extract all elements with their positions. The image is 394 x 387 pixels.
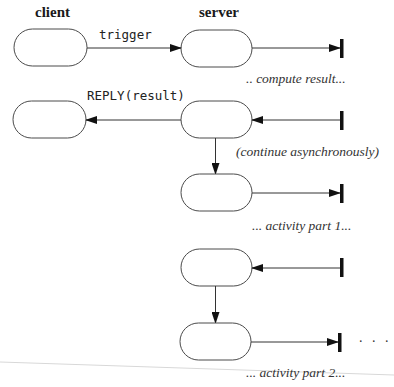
continue-async-note: (continue asynchronously) (236, 144, 379, 160)
server-node-5 (180, 323, 251, 360)
server-node-1 (181, 30, 252, 67)
server-node-2 (181, 101, 252, 138)
terminal-bar-2 (340, 111, 344, 130)
client-node-2 (13, 101, 86, 138)
terminal-bar-4 (340, 258, 344, 277)
reply-label: REPLY(result) (87, 88, 185, 103)
terminal-bar-5 (338, 333, 342, 352)
client-node-1 (14, 29, 87, 66)
compute-result-note: .. compute result... (246, 71, 346, 87)
terminal-bar-3 (340, 184, 344, 203)
trigger-label: trigger (99, 27, 152, 42)
activity-part-1-note: ... activity part 1... (252, 218, 351, 234)
server-node-4 (181, 249, 252, 286)
diagram-canvas (0, 0, 394, 387)
server-node-3 (181, 174, 252, 211)
terminal-bar-1 (340, 39, 344, 58)
continuation-ellipsis: . . . (359, 330, 392, 346)
server-column-header: server (199, 4, 239, 21)
client-column-header: client (35, 4, 70, 21)
activity-part-2-note: ... activity part 2... (246, 365, 345, 381)
